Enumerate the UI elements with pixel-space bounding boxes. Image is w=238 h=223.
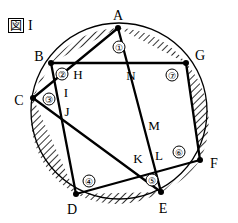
region-number-7: ⑦	[166, 69, 179, 82]
vertex-dot-C	[30, 95, 36, 101]
region-number-4: ④	[83, 175, 96, 188]
point-label-F: F	[210, 157, 218, 171]
figure-caption-roman: I	[28, 19, 33, 33]
point-label-C: C	[14, 94, 23, 108]
point-label-B: B	[34, 50, 43, 64]
figure-caption: 図 I	[8, 18, 33, 33]
figure-root: 図 I A B C D E F G H I J K L M N ① ② ③ ④ …	[0, 0, 238, 223]
vertex-dot-F	[197, 157, 203, 163]
point-label-E: E	[159, 202, 168, 216]
vertex-dot-D	[73, 191, 79, 197]
vertex-dot-E	[158, 189, 164, 195]
vertex-dot-B	[48, 60, 54, 66]
point-label-K: K	[133, 152, 142, 165]
figure-caption-boxed-char: 図	[8, 18, 24, 33]
geometry-diagram	[0, 0, 238, 223]
point-label-A: A	[113, 9, 123, 23]
point-label-I: I	[64, 86, 68, 99]
region-number-6: ⑥	[173, 146, 186, 159]
point-label-M: M	[148, 119, 160, 132]
vertex-dot-A	[115, 25, 121, 31]
region-number-3: ③	[43, 93, 56, 106]
region-number-2: ②	[56, 68, 69, 81]
point-label-D: D	[67, 203, 77, 217]
point-label-H: H	[73, 68, 82, 81]
point-label-J: J	[64, 105, 69, 118]
region-number-5: ⑤	[146, 174, 159, 187]
hatch-segment-1	[118, 28, 186, 63]
point-label-G: G	[195, 49, 205, 63]
vertex-dot-G	[183, 60, 189, 66]
point-label-L: L	[155, 149, 163, 162]
point-label-N: N	[126, 69, 135, 82]
region-number-1: ①	[113, 41, 126, 54]
